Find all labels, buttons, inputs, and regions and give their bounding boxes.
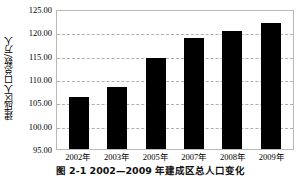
y-tick-label: 125.00 — [29, 6, 52, 15]
figure-caption: 图 2-1 2002—2009 年建成区总人口变化 — [0, 165, 301, 176]
bar-slot — [252, 11, 290, 149]
y-tick-label: 100.00 — [29, 122, 52, 131]
y-tick-label: 95.00 — [33, 146, 52, 155]
bar-series — [57, 11, 293, 149]
y-tick-label: 115.00 — [29, 52, 52, 61]
bar-slot — [60, 11, 98, 149]
x-tick-label: 2008年 — [214, 152, 253, 164]
bar — [146, 58, 166, 149]
bar — [184, 38, 204, 149]
y-axis-tick-labels: 95.00100.00105.00110.00115.00120.00125.0… — [14, 10, 54, 150]
bar — [69, 97, 89, 149]
y-axis-title-text: 建成区人口总数/万人 — [3, 36, 13, 120]
y-tick-label: 105.00 — [29, 99, 52, 108]
bar — [261, 23, 281, 149]
bar-slot — [137, 11, 175, 149]
x-tick-label: 2009年 — [252, 152, 291, 164]
x-tick-label: 2005年 — [136, 152, 175, 164]
y-tick-label: 120.00 — [29, 29, 52, 38]
plot-area — [56, 10, 294, 150]
x-tick-label: 2007年 — [175, 152, 214, 164]
bar-chart-figure: 建成区人口总数/万人 95.00100.00105.00110.00115.00… — [0, 0, 301, 176]
bar — [222, 31, 242, 149]
bar — [107, 87, 127, 149]
y-tick-label: 110.00 — [29, 76, 52, 85]
x-tick-label: 2003年 — [98, 152, 137, 164]
bar-slot — [98, 11, 136, 149]
y-axis-title: 建成区人口总数/万人 — [1, 8, 15, 148]
bar-slot — [175, 11, 213, 149]
bar-slot — [213, 11, 251, 149]
x-axis-tick-labels: 2002年2003年2005年2007年2008年2009年 — [56, 152, 294, 164]
x-tick-label: 2002年 — [59, 152, 98, 164]
